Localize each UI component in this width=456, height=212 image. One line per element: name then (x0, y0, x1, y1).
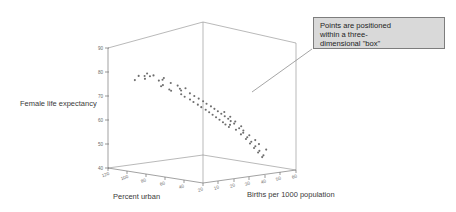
scatter-point (262, 154, 264, 156)
scatter-point (170, 82, 172, 84)
scatter-point (223, 111, 225, 113)
scatter-point (152, 74, 154, 76)
scatter-point (168, 88, 170, 90)
x-tick-label: 10 (213, 184, 220, 191)
scatter-point (146, 72, 148, 74)
scatter-point (254, 139, 256, 141)
scatter-point (208, 111, 210, 113)
y-tick-label: 80 (98, 70, 104, 75)
scatter-points-layer (134, 72, 267, 158)
scatter-point (198, 98, 200, 100)
scatter-point (240, 125, 242, 127)
scatter-point (227, 118, 229, 120)
z-tick-label: 20 (197, 186, 204, 193)
scatter-point (213, 108, 215, 110)
callout-leader-line (252, 49, 312, 92)
y-axis-ticks: 90 80 70 60 50 40 (98, 46, 109, 171)
scatter-point (200, 106, 202, 108)
scatter-point (257, 152, 259, 154)
scatter-point (193, 95, 195, 97)
x-tick-label: 60 (291, 173, 298, 180)
scatter-point (189, 92, 191, 94)
scatter-point (228, 126, 230, 128)
scatter-point (242, 129, 244, 131)
scatter-point (138, 75, 140, 77)
scatter-point (220, 113, 222, 115)
scatter-point (170, 90, 172, 92)
scatter-3d-figure: 90 80 70 60 50 40 120 100 80 60 40 20 (0, 0, 456, 212)
scatter-point (206, 103, 208, 105)
scatter-point (197, 104, 199, 106)
scatter-point (215, 116, 217, 118)
scatter-point (162, 79, 164, 81)
scatter-point (233, 123, 235, 125)
scatter-point (250, 141, 252, 143)
scatter-point (242, 132, 244, 134)
scatter-point (218, 119, 220, 121)
scatter-point (134, 79, 136, 81)
scatter-point (229, 116, 231, 118)
callout-annotation: Points are positioned within a three- di… (313, 17, 445, 49)
scatter-point (184, 87, 186, 89)
scatter-point (235, 129, 237, 131)
scatter-point (229, 124, 231, 126)
scatter-point (234, 120, 236, 122)
x-tick-label: 30 (244, 180, 251, 187)
scatter-point (160, 85, 162, 87)
scatter-point (253, 147, 255, 149)
scatter-point (158, 80, 160, 82)
scatter-point (245, 138, 247, 140)
scatter-point (248, 134, 250, 136)
scatter-point (180, 89, 182, 91)
x-axis-title: Births per 1000 population (247, 190, 335, 199)
scatter-point (265, 149, 267, 151)
x-tick-label: 50 (275, 175, 282, 182)
scatter-point (224, 115, 226, 117)
y-tick-label: 70 (98, 94, 104, 99)
y-tick-label: 90 (98, 46, 104, 51)
scatter-point (230, 120, 232, 122)
scatter-point (212, 114, 214, 116)
z-tick-label: 120 (101, 171, 110, 178)
scatter-point (177, 85, 179, 87)
scatter-point (162, 84, 164, 86)
plot-box-wireframe (108, 22, 296, 183)
scatter-point (210, 105, 212, 107)
scatter-point (254, 145, 256, 147)
scatter-point (261, 156, 263, 158)
scatter-point (149, 75, 151, 77)
scatter-point (189, 98, 191, 100)
floor-edge-back-left (108, 155, 203, 168)
scatter-point (240, 133, 242, 135)
z-tick-label: 60 (159, 180, 166, 187)
y-tick-label: 50 (98, 142, 104, 147)
z-tick-label: 40 (178, 183, 185, 190)
y-tick-label: 60 (98, 118, 104, 123)
scatter-point (144, 75, 146, 77)
scatter-point (258, 143, 260, 145)
scatter-point (163, 77, 165, 79)
scatter-point (144, 78, 146, 80)
scatter-point (205, 109, 207, 111)
scatter-point (238, 127, 240, 129)
scatter-point (180, 93, 182, 95)
floor-edge-births (203, 170, 296, 183)
scatter-point (249, 142, 251, 144)
scatter-point (217, 110, 219, 112)
z-tick-label: 80 (140, 177, 147, 184)
box-edge-top-left (108, 22, 203, 48)
z-tick-label: 100 (120, 174, 129, 181)
scatter-point (258, 150, 260, 152)
z-axis-title: Percent urban (113, 192, 160, 201)
scatter-point (224, 123, 226, 125)
x-tick-label: 20 (229, 182, 236, 189)
x-tick-label: 40 (260, 178, 267, 185)
scatter-point (184, 96, 186, 98)
box-edge-top-right (203, 22, 296, 43)
scatter-point (222, 121, 224, 123)
scatter-point (246, 136, 248, 138)
y-axis-title: Female life expectancy (20, 99, 97, 108)
floor-edge-back-right (203, 155, 296, 170)
scatter-point (202, 100, 204, 102)
x-axis-ticks: 10 20 30 40 50 60 (213, 170, 298, 191)
